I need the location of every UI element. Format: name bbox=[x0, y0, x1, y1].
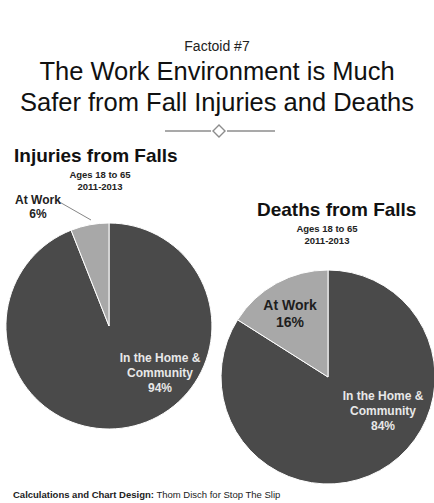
injuries-chart-title: Injuries from Falls bbox=[14, 145, 178, 167]
injuries-work-callout: At Work 6% bbox=[10, 193, 66, 221]
deaths-chart-title: Deaths from Falls bbox=[257, 199, 416, 221]
title-line-2: Safer from Fall Injuries and Deaths bbox=[0, 87, 434, 118]
injuries-home-label: In the Home & Community 94% bbox=[110, 351, 210, 396]
credits-text: Thom Disch for Stop The Slip bbox=[154, 489, 280, 500]
deaths-work-label: At Work 16% bbox=[255, 297, 325, 331]
credits-label: Calculations and Chart Design: bbox=[13, 489, 154, 500]
page-title: The Work Environment is Much Safer from … bbox=[0, 56, 434, 118]
credits-footer: Calculations and Chart Design: Thom Disc… bbox=[13, 489, 280, 500]
title-line-1: The Work Environment is Much bbox=[0, 56, 434, 87]
factoid-number: Factoid #7 bbox=[0, 38, 434, 54]
deaths-chart-subtitle: Ages 18 to 65 2011-2013 bbox=[287, 223, 367, 247]
deaths-home-label: In the Home & Community 84% bbox=[335, 389, 431, 434]
divider-diamond-icon bbox=[165, 124, 275, 138]
